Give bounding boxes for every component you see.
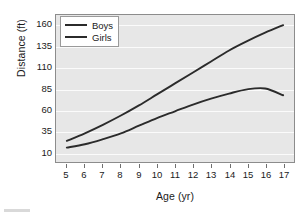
y-tick-label: 110	[26, 62, 52, 72]
legend-item-girls[interactable]: Girls	[65, 31, 113, 43]
x-tick-mark	[84, 164, 85, 168]
legend-label-boys: Boys	[92, 20, 113, 31]
legend-swatch-girls-icon	[65, 36, 87, 38]
x-tick-mark	[248, 164, 249, 168]
line-chart-figure: Distance (ft) 10356085110135160 Boys Gir…	[0, 0, 304, 216]
x-tick-mark	[230, 164, 231, 168]
legend-swatch-boys-icon	[65, 24, 87, 26]
legend-item-boys[interactable]: Boys	[65, 19, 113, 31]
x-axis-tick-labels: 567891011121314151617	[55, 164, 295, 178]
x-axis-title: Age (yr)	[55, 190, 295, 202]
y-tick-label: 160	[26, 19, 52, 29]
x-tick-mark	[102, 164, 103, 168]
x-tick-mark	[284, 164, 285, 168]
x-tick-mark	[266, 164, 267, 168]
x-tick-label: 17	[273, 169, 295, 180]
y-tick-label: 35	[26, 126, 52, 136]
y-tick-label: 135	[26, 41, 52, 51]
x-tick-mark	[211, 164, 212, 168]
plot-area: Boys Girls	[55, 14, 295, 163]
chart-legend: Boys Girls	[60, 16, 119, 47]
x-tick-mark	[66, 164, 67, 168]
series-line-girls	[67, 88, 283, 148]
y-tick-label: 10	[26, 148, 52, 158]
x-tick-mark	[139, 164, 140, 168]
footer-artifact	[4, 209, 30, 212]
y-tick-label: 85	[26, 84, 52, 94]
x-tick-mark	[193, 164, 194, 168]
x-tick-mark	[175, 164, 176, 168]
y-axis-tick-labels: 10356085110135160	[22, 0, 52, 216]
legend-label-girls: Girls	[92, 32, 112, 43]
x-tick-mark	[120, 164, 121, 168]
y-tick-label: 60	[26, 105, 52, 115]
x-tick-mark	[157, 164, 158, 168]
